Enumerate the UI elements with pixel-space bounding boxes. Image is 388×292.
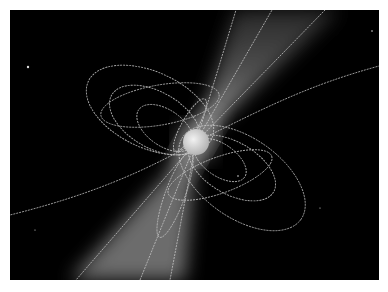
pulsar-illustration: [10, 10, 379, 280]
pulsar-image: [10, 10, 379, 280]
neutron-star: [183, 129, 209, 155]
